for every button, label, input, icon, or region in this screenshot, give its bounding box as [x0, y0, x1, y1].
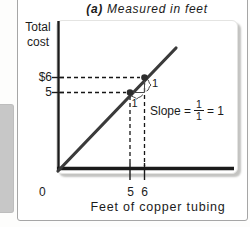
slope-annotation-prefix: Slope = — [150, 104, 191, 118]
x-tick-label-5: 5 — [125, 186, 136, 199]
slope-annotation-result: = 1 — [207, 104, 224, 118]
y-axis-title: Total cost — [20, 20, 56, 50]
data-point-5-5 — [127, 89, 134, 96]
run-value-label: 1 — [130, 97, 139, 110]
slope-annotation: Slope = 1 1 = 1 — [150, 97, 224, 124]
rise-brace-icon — [147, 79, 152, 91]
y-tick-label-5: 5 — [28, 86, 52, 99]
x-tick-label-6: 6 — [139, 186, 150, 199]
data-point-6-6 — [141, 74, 148, 81]
slope-fraction: 1 1 — [194, 99, 204, 122]
y-axis-title-line2: cost — [20, 35, 56, 50]
x-axis-title: Feet of copper tubing — [70, 201, 246, 214]
slope-fraction-numerator: 1 — [194, 99, 204, 110]
figure-panel-a: (a) Measured in feet Total cost $6 5 0 5… — [0, 0, 250, 227]
y-axis-title-line1: Total — [20, 20, 56, 35]
slope-fraction-denominator: 1 — [194, 110, 204, 122]
origin-label: 0 — [39, 186, 46, 199]
rise-value-label: 1 — [152, 77, 158, 90]
y-tick-label-6: $6 — [28, 71, 52, 84]
